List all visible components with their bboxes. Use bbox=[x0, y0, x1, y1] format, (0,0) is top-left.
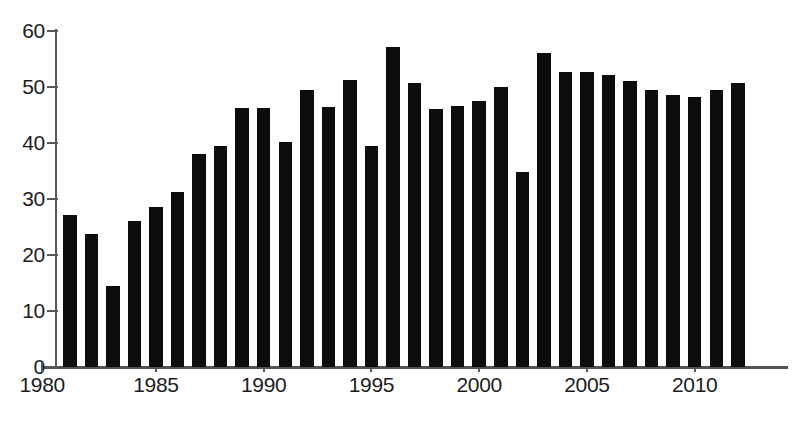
bar bbox=[149, 207, 163, 367]
y-tick-label: 50 bbox=[5, 76, 45, 97]
y-tick-label: 20 bbox=[5, 244, 45, 265]
x-tick-label: 2000 bbox=[444, 374, 514, 395]
bar bbox=[731, 83, 745, 367]
plot-area bbox=[56, 31, 783, 367]
x-tick-label: 1995 bbox=[336, 374, 406, 395]
bar bbox=[472, 101, 486, 367]
bar bbox=[279, 142, 293, 367]
bar bbox=[516, 172, 530, 367]
bar bbox=[537, 53, 551, 367]
bar bbox=[623, 81, 637, 367]
bar-chart-figure: 0102030405060 19801985199019952000200520… bbox=[0, 0, 793, 422]
bar bbox=[214, 146, 228, 367]
bar bbox=[580, 72, 594, 367]
bar bbox=[300, 90, 314, 367]
x-tick-label: 2005 bbox=[552, 374, 622, 395]
y-tick-label: 40 bbox=[5, 132, 45, 153]
y-tick-label: 60 bbox=[5, 20, 45, 41]
bar bbox=[343, 80, 357, 367]
x-tick-mark bbox=[41, 362, 43, 372]
bar bbox=[602, 75, 616, 367]
bar bbox=[63, 215, 77, 367]
bar bbox=[710, 90, 724, 367]
bar bbox=[171, 192, 185, 367]
bar bbox=[451, 106, 465, 367]
y-tick-label: 30 bbox=[5, 188, 45, 209]
bar bbox=[494, 87, 508, 367]
bar bbox=[85, 234, 99, 367]
bar bbox=[688, 97, 702, 367]
bar bbox=[235, 108, 249, 367]
bar bbox=[386, 47, 400, 367]
x-tick-label: 1980 bbox=[7, 374, 77, 395]
y-tick-label: 10 bbox=[5, 300, 45, 321]
x-tick-label: 2010 bbox=[660, 374, 730, 395]
bar bbox=[192, 154, 206, 367]
bar bbox=[257, 108, 271, 367]
bar bbox=[408, 83, 422, 367]
bar bbox=[128, 221, 142, 367]
bar bbox=[645, 90, 659, 367]
x-tick-label: 1985 bbox=[121, 374, 191, 395]
bar bbox=[666, 95, 680, 367]
bar bbox=[429, 109, 443, 367]
caption-fragment bbox=[8, 408, 338, 420]
x-tick-label: 1990 bbox=[229, 374, 299, 395]
bar bbox=[322, 107, 336, 367]
bar bbox=[365, 146, 379, 367]
bar bbox=[106, 286, 120, 367]
bar bbox=[559, 72, 573, 367]
